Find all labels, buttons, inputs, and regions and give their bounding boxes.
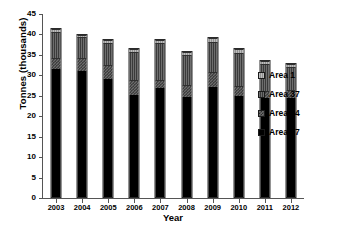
legend-swatch-icon <box>258 91 265 98</box>
bar-segment-area-34 <box>78 58 87 71</box>
stacked-bar[interactable] <box>103 39 114 198</box>
legend-item[interactable]: Area 27 <box>258 123 342 142</box>
bar-segment-area-37 <box>156 43 165 79</box>
y-tick-label: 0 <box>10 194 36 202</box>
bar-segment-area-27 <box>156 88 165 197</box>
stacked-bar[interactable] <box>207 37 218 198</box>
bar-segment-area-34 <box>130 80 139 95</box>
bar-segment-area-27 <box>130 95 139 197</box>
bar-segment-area-37 <box>130 52 139 80</box>
y-tick-label: 20 <box>10 112 36 120</box>
bar-slot <box>174 14 200 198</box>
bar-slot <box>43 14 69 198</box>
bar-segment-area-37 <box>234 53 243 86</box>
legend-swatch-icon <box>258 129 265 136</box>
y-tick-label: 10 <box>10 153 36 161</box>
bar-segment-area-27 <box>52 69 61 197</box>
bar-segment-area-34 <box>52 58 61 69</box>
bar-slot <box>121 14 147 198</box>
bar-segment-area-27 <box>104 79 113 197</box>
bar-segment-area-34 <box>234 86 243 96</box>
bar-segment-area-34 <box>156 80 165 88</box>
y-tick-label: 25 <box>10 92 36 100</box>
bar-segment-area-27 <box>234 96 243 197</box>
y-tick-label: 35 <box>10 51 36 59</box>
bar-segment-area-37 <box>78 37 87 58</box>
stacked-bar[interactable] <box>155 39 166 198</box>
legend-item[interactable]: Area 37 <box>258 85 342 104</box>
y-tick-label: 45 <box>10 10 36 18</box>
bar-segment-area-34 <box>208 72 217 87</box>
legend-label: Area 37 <box>269 90 300 99</box>
stacked-bar[interactable] <box>181 51 192 198</box>
bar-segment-area-37 <box>182 55 191 84</box>
y-tick-label: 30 <box>10 71 36 79</box>
legend-label: Area 1 <box>269 71 295 80</box>
x-tick-label: 2012 <box>271 204 311 212</box>
chart-legend: Area 1Area 37Area 34Area 27 <box>258 66 342 142</box>
bar-segment-area-27 <box>78 71 87 197</box>
y-tick-label: 5 <box>10 174 36 182</box>
y-tick-label: 40 <box>10 30 36 38</box>
bar-slot <box>147 14 173 198</box>
legend-swatch-icon <box>258 110 265 117</box>
bar-slot <box>226 14 252 198</box>
stacked-bar[interactable] <box>233 48 244 198</box>
bar-segment-area-34 <box>104 65 113 79</box>
legend-swatch-icon <box>258 72 265 79</box>
legend-item[interactable]: Area 1 <box>258 66 342 85</box>
bar-segment-area-37 <box>208 42 217 72</box>
legend-item[interactable]: Area 34 <box>258 104 342 123</box>
bar-segment-area-37 <box>104 43 113 64</box>
stacked-bar-chart: Tonnes (thousands) 051015202530354045 20… <box>0 0 344 230</box>
bar-segment-area-27 <box>208 87 217 197</box>
bar-slot <box>200 14 226 198</box>
stacked-bar[interactable] <box>77 34 88 198</box>
bar-segment-area-34 <box>182 85 191 97</box>
x-axis-title: Year <box>42 212 304 223</box>
bar-segment-area-37 <box>52 32 61 58</box>
bar-segment-area-27 <box>182 97 191 197</box>
legend-label: Area 34 <box>269 109 300 118</box>
legend-label: Area 27 <box>269 128 300 137</box>
y-tick-label: 15 <box>10 133 36 141</box>
stacked-bar[interactable] <box>51 28 62 198</box>
bar-slot <box>69 14 95 198</box>
bar-slot <box>95 14 121 198</box>
stacked-bar[interactable] <box>129 48 140 198</box>
